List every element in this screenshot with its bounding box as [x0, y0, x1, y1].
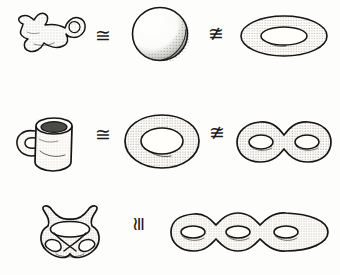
relation-not-congruent-row1: ≇ [208, 24, 224, 43]
figure-row-1: ≅ [0, 0, 340, 92]
relation-not-congruent-row2: ≇ [209, 123, 225, 142]
relation-congruent-row3: ≅ [129, 216, 148, 232]
triple-torus-icon [168, 208, 332, 256]
shape-torus-row2 [122, 112, 202, 172]
knotted-genus-3-surface-icon [30, 202, 110, 264]
torus-icon [122, 112, 202, 172]
shape-double-torus [234, 117, 334, 167]
shape-triple-torus [168, 208, 332, 256]
sphere-icon [130, 5, 192, 65]
shape-knotted-genus-3-surface [30, 202, 110, 264]
torus-icon [238, 14, 330, 58]
shape-blob-with-curled-tail [14, 8, 90, 64]
figure-row-3: ≅ [0, 190, 340, 275]
relation-congruent-row1: ≅ [95, 26, 111, 45]
figure-row-2: ≅ ≇ [0, 95, 340, 190]
shape-torus-row1 [238, 14, 330, 58]
shape-coffee-mug [14, 105, 86, 175]
relation-congruent-row2: ≅ [95, 125, 111, 144]
double-torus-icon [234, 117, 334, 167]
topology-figure: ≅ [0, 0, 340, 275]
shape-sphere [130, 5, 192, 65]
coffee-mug-icon [14, 105, 86, 175]
blob-with-curled-tail-icon [14, 8, 90, 64]
